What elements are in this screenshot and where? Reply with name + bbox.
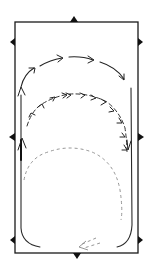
marker-left-middle <box>9 133 15 141</box>
inner-arc-arrow-1 <box>29 113 35 117</box>
marker-right-upper <box>138 38 143 46</box>
inner-arc-arrow-9 <box>109 107 114 112</box>
arena-diagram <box>0 0 155 272</box>
marker-bottom-center <box>73 253 81 259</box>
inner-arc-arrow-13 <box>127 140 131 150</box>
lower-loop-return-2 <box>84 243 100 248</box>
inner-arc-arrow-11 <box>120 133 125 137</box>
lower-loop-arrow <box>79 241 88 250</box>
marker-left-upper <box>10 38 15 46</box>
inner-arc-arrow-2 <box>38 104 44 108</box>
inner-arc-arrow-6 <box>80 93 85 98</box>
marker-right-lower <box>138 236 143 244</box>
inner-arc <box>27 94 127 152</box>
track-right <box>117 88 132 247</box>
inner-arc-arrow-10 <box>117 118 122 123</box>
outer-arc-seg-4 <box>100 62 124 79</box>
marker-left-lower <box>10 236 15 244</box>
inner-arc-arrow-12 <box>122 145 127 150</box>
marker-top-center <box>70 16 78 22</box>
marker-right-middle <box>138 133 144 141</box>
lower-loop <box>24 148 122 220</box>
outer-arc-seg-1 <box>21 68 34 87</box>
inner-arc-arrow-7 <box>91 95 96 100</box>
arrow-up-left-upper <box>18 87 25 96</box>
